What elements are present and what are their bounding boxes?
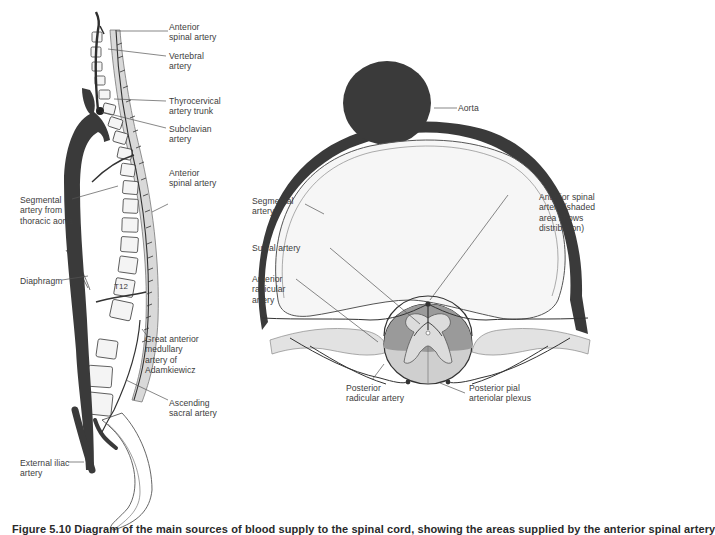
vertebra	[109, 299, 133, 321]
vertebral-column	[85, 32, 139, 416]
label-vertebral-artery: Vertebral artery	[169, 51, 204, 72]
vertebra	[99, 90, 110, 99]
anterior-spinal-artery-line	[116, 30, 149, 400]
label-segmental-artery-thoracic: Segmental artery from thoracic aorta	[20, 195, 73, 226]
vertebra	[87, 365, 112, 388]
label-sulcal-artery: Sulcal artery	[252, 243, 300, 253]
vertebra	[120, 163, 136, 177]
label-posterior-pial-arteriolar-plexus: Posterior pial arteriolar plexus	[469, 383, 531, 404]
label-anterior-spinal-artery-mid: Anterior spinal artery	[169, 168, 216, 189]
label-posterior-radicular-artery: Posterior radicular artery	[346, 383, 404, 404]
vertebra	[122, 218, 138, 233]
label-external-iliac-artery: External iliac artery	[20, 458, 69, 479]
vertebra	[122, 180, 138, 194]
label-anterior-spinal-artery-distribution: Anterior spinal artery (shaded area show…	[539, 192, 595, 234]
vertebra	[120, 236, 138, 252]
label-diaphragm: Diaphragm	[20, 276, 62, 286]
vertebra	[118, 256, 138, 274]
label-t12: T12	[114, 282, 128, 292]
label-aorta: Aorta	[458, 103, 479, 113]
nerve-root-left	[270, 328, 388, 355]
vertebral-body-cross-section	[276, 140, 566, 319]
label-segmental-artery: Segmental artery	[252, 196, 294, 217]
label-great-anterior-medullary-artery: Great anterior medullary artery of Adamk…	[145, 334, 199, 376]
nerve-root-right	[472, 328, 590, 355]
figure-caption: Figure 5.10 Diagram of the main sources …	[12, 523, 715, 535]
central-canal	[426, 331, 430, 335]
label-ascending-sacral-artery: Ascending sacral artery	[169, 398, 217, 419]
label-anterior-radicular-artery: Anterior radicular artery	[252, 274, 285, 305]
vertebral-artery	[96, 12, 99, 110]
sacrum-outline	[102, 413, 152, 530]
label-thyrocervical-trunk: Thyrocervical artery trunk	[169, 96, 221, 117]
vertebra	[123, 199, 139, 214]
spinal-cord-cross-section	[384, 296, 472, 384]
label-subclavian-artery: Subclavian artery	[169, 124, 212, 145]
vertebra	[92, 62, 102, 71]
vertebra	[96, 339, 118, 360]
aorta-cross-section	[343, 61, 431, 145]
label-anterior-spinal-artery-top: Anterior spinal artery	[169, 22, 216, 43]
